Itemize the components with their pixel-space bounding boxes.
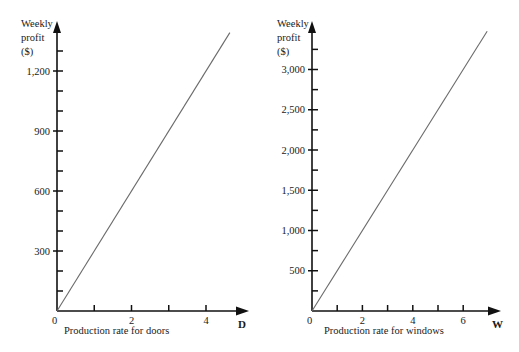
x-axis-name: D bbox=[238, 318, 246, 330]
x-axis-arrow-icon bbox=[488, 307, 501, 316]
x-axis-ticks: 246 bbox=[337, 305, 466, 326]
origin-label: 0 bbox=[307, 315, 312, 326]
x-axis-label: Production rate for windows bbox=[324, 325, 444, 336]
x-axis-ticks: 24 bbox=[94, 305, 209, 326]
x-axis-arrow-icon bbox=[236, 307, 249, 316]
y-tick-label: 3,000 bbox=[281, 64, 305, 75]
y-tick-label: 1,200 bbox=[26, 66, 50, 77]
y-axis-label-line1: Weekly bbox=[21, 18, 54, 29]
profit-line bbox=[57, 33, 230, 311]
y-axis-arrow-icon bbox=[53, 21, 61, 33]
y-axis-label-line2: profit bbox=[277, 32, 300, 43]
x-axis-name: W bbox=[492, 318, 503, 330]
y-tick-label: 600 bbox=[34, 186, 50, 197]
profit-line bbox=[312, 31, 487, 311]
y-tick-label: 1,000 bbox=[281, 225, 305, 236]
y-axis-label-line1: Weekly bbox=[277, 18, 310, 29]
y-tick-label: 1,500 bbox=[281, 185, 305, 196]
y-axis-label-line3: ($) bbox=[21, 46, 34, 58]
x-tick-label: 4 bbox=[203, 315, 209, 326]
figure: Weekly profit ($) 3006009001,200 24 0 D … bbox=[0, 0, 519, 352]
x-tick-label: 6 bbox=[461, 315, 466, 326]
y-axis-label-line3: ($) bbox=[277, 46, 290, 58]
x-axis-label: Production rate for doors bbox=[64, 325, 169, 336]
y-tick-label: 2,500 bbox=[281, 104, 305, 115]
chart-windows: Weekly profit ($) 5001,0001,5002,0002,50… bbox=[277, 18, 503, 336]
origin-label: 0 bbox=[52, 315, 57, 326]
y-axis-arrow-icon bbox=[308, 21, 316, 33]
y-tick-label: 900 bbox=[34, 126, 50, 137]
y-axis-label-line2: profit bbox=[21, 32, 44, 43]
y-tick-label: 2,000 bbox=[281, 145, 305, 156]
y-tick-label: 500 bbox=[289, 265, 305, 276]
chart-doors: Weekly profit ($) 3006009001,200 24 0 D … bbox=[21, 18, 249, 336]
y-tick-label: 300 bbox=[34, 246, 50, 257]
